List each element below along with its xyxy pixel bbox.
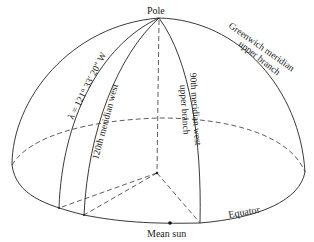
- radius-120: [84, 173, 157, 215]
- hemisphere-diagram: Pole Greenwich meridian upper branch 90t…: [0, 0, 314, 242]
- mean-sun-dot: [168, 221, 172, 225]
- pole-label: Pole: [147, 5, 165, 16]
- equator-label: Equator: [227, 204, 261, 220]
- radius-90: [157, 173, 200, 223]
- center-point: [156, 172, 159, 175]
- equator-back: [12, 118, 305, 172]
- meridian-120: [84, 18, 159, 215]
- radius-lambda: [59, 173, 157, 208]
- meridian-120-equator-point: [83, 214, 85, 216]
- polar-axis: [157, 20, 159, 173]
- meridian-90-upper-branch-label: upper branch: [178, 84, 191, 135]
- lambda-equator-point: [58, 207, 60, 209]
- longitude-label: λ = 121° 33′ 20″ W: [66, 51, 108, 121]
- mean-sun-label: Mean sun: [147, 228, 186, 239]
- equator-front: [12, 165, 305, 223]
